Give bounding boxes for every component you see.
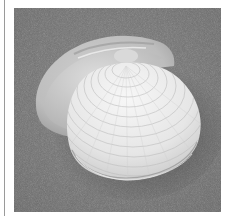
- left-edge-line: [4, 0, 5, 216]
- shell-illustration: [14, 8, 221, 212]
- umbo: [114, 49, 138, 63]
- shell-photo: [14, 8, 221, 212]
